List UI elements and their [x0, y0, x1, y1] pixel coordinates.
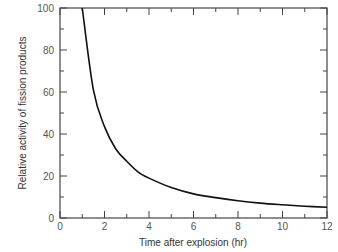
x-tick-label: 0	[57, 221, 63, 232]
y-tick-label: 100	[37, 3, 54, 14]
y-axis-label: Relative activity of fission products	[17, 37, 28, 190]
decay-curve	[82, 8, 327, 207]
x-tick-label: 6	[191, 221, 197, 232]
x-tick-label: 12	[321, 221, 333, 232]
y-tick-label: 0	[48, 213, 54, 224]
y-tick-label: 80	[43, 45, 55, 56]
x-tick-label: 10	[277, 221, 289, 232]
y-tick-label: 40	[43, 129, 55, 140]
decay-chart: 024681012 020406080100 Time after explos…	[0, 0, 338, 252]
x-axis-ticks: 024681012	[57, 8, 333, 232]
y-tick-label: 20	[43, 171, 55, 182]
x-tick-label: 2	[102, 221, 108, 232]
y-tick-label: 60	[43, 87, 55, 98]
x-tick-label: 4	[146, 221, 152, 232]
x-tick-label: 8	[235, 221, 241, 232]
x-axis-label: Time after explosion (hr)	[139, 237, 247, 248]
